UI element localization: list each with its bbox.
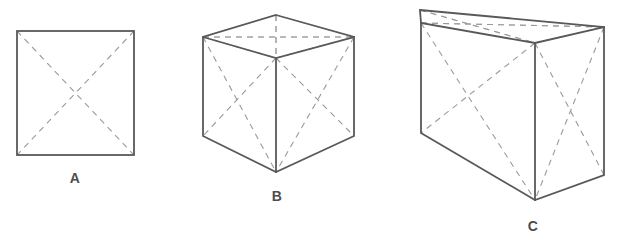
- shape-c-cuboid: [420, 10, 604, 200]
- shape-label-b: B: [272, 188, 283, 204]
- shape-label-a: A: [70, 170, 81, 186]
- shape-a-square: [17, 31, 134, 155]
- shapes-illustration: [0, 0, 622, 244]
- figure-canvas: A B C: [0, 0, 622, 244]
- shape-b-cube: [203, 15, 354, 172]
- shape-label-c: C: [528, 218, 539, 234]
